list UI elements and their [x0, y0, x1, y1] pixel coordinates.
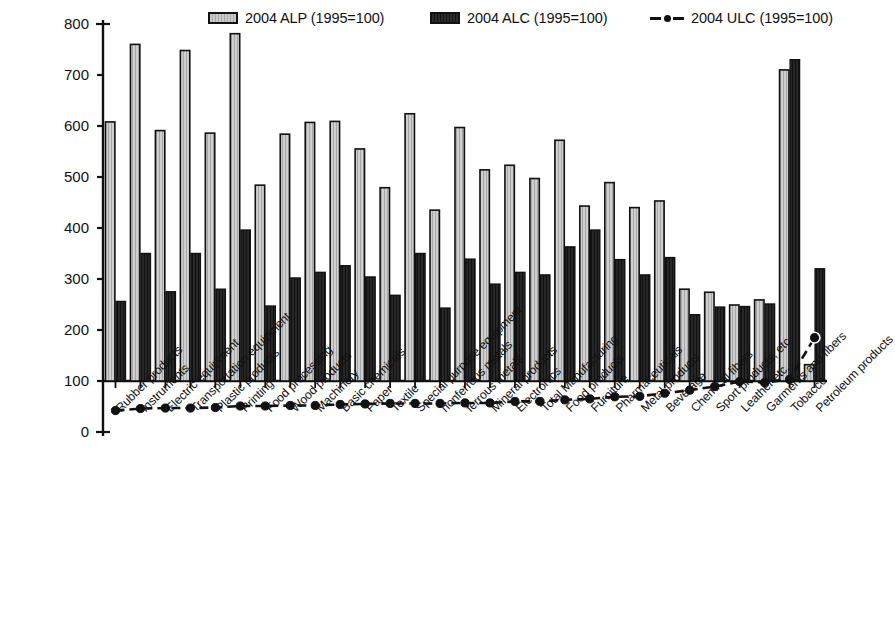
bar-alp-5 [230, 34, 239, 381]
ulc-point-22 [661, 389, 669, 397]
ulc-point-11 [386, 399, 394, 407]
bar-alp-19 [580, 206, 589, 381]
ulc-point-9 [336, 400, 344, 408]
bar-alc-4 [216, 289, 225, 381]
bar-alc-9 [341, 266, 350, 381]
y-tick-label-700: 700 [47, 67, 89, 82]
bar-alc-8 [316, 272, 325, 381]
bar-alp-28 [805, 365, 814, 381]
ulc-point-4 [211, 403, 219, 411]
bar-alp-17 [530, 179, 539, 381]
bar-alp-18 [555, 140, 564, 381]
bar-alp-2 [155, 131, 164, 381]
ulc-point-1 [136, 404, 144, 412]
bar-alc-1 [141, 254, 150, 382]
bar-alc-19 [590, 230, 599, 381]
bar-alp-6 [255, 185, 264, 381]
bar-alc-11 [391, 295, 400, 381]
ulc-point-12 [411, 399, 419, 407]
bar-alc-12 [416, 254, 425, 382]
ulc-point-7 [286, 401, 294, 409]
ulc-point-20 [611, 393, 619, 401]
bar-alp-10 [355, 149, 364, 381]
ulc-point-27 [785, 375, 793, 383]
bar-alp-26 [755, 300, 764, 381]
ulc-point-8 [311, 401, 319, 409]
ulc-point-5 [236, 402, 244, 410]
bar-alc-17 [540, 275, 549, 381]
bar-alc-10 [366, 277, 375, 381]
bar-alc-16 [516, 272, 525, 381]
bar-alc-0 [116, 301, 125, 381]
ulc-point-23 [686, 386, 694, 394]
ulc-point-10 [361, 400, 369, 408]
bar-alp-7 [280, 134, 289, 381]
bar-alc-24 [715, 307, 724, 381]
bar-alc-6 [266, 306, 275, 381]
y-tick-label-100: 100 [47, 373, 89, 388]
bar-alp-14 [455, 128, 464, 381]
bar-alp-22 [655, 201, 664, 381]
bar-alc-3 [191, 254, 200, 382]
y-tick-label-600: 600 [47, 118, 89, 133]
bar-alp-8 [305, 122, 314, 381]
bar-alc-23 [690, 315, 699, 381]
ulc-point-13 [436, 399, 444, 407]
bar-alp-21 [630, 208, 639, 381]
bar-alc-5 [241, 230, 250, 381]
bar-alc-22 [665, 258, 674, 381]
bar-alp-13 [430, 210, 439, 381]
bar-alp-4 [205, 133, 214, 381]
ulc-point-6 [261, 402, 269, 410]
bar-alp-27 [780, 70, 789, 381]
ulc-point-15 [486, 399, 494, 407]
ulc-point-14 [461, 399, 469, 407]
ulc-point-16 [511, 397, 519, 405]
bar-alp-0 [105, 122, 114, 381]
ulc-point-21 [636, 392, 644, 400]
bar-alc-7 [291, 278, 300, 381]
ulc-point-0 [111, 406, 119, 414]
bar-alc-26 [765, 304, 774, 381]
bar-alc-21 [640, 275, 649, 381]
y-tick-label-500: 500 [47, 169, 89, 184]
bar-alc-15 [491, 284, 500, 381]
bar-alp-20 [605, 183, 614, 381]
bar-alp-12 [405, 114, 414, 381]
bar-alc-14 [466, 259, 475, 381]
bar-alc-2 [166, 292, 175, 381]
bar-alc-27 [790, 60, 799, 381]
y-tick-label-800: 800 [47, 16, 89, 31]
bar-alp-16 [505, 165, 514, 381]
bar-alp-23 [680, 289, 689, 381]
y-tick-label-0: 0 [47, 424, 89, 439]
bar-alp-25 [730, 305, 739, 381]
ulc-point-19 [586, 395, 594, 403]
ulc-point-18 [561, 396, 569, 404]
ulc-point-2 [161, 404, 169, 412]
bar-alc-13 [441, 308, 450, 381]
bar-alc-18 [565, 247, 574, 381]
bar-alp-15 [480, 170, 489, 381]
ulc-point-28 [809, 332, 820, 343]
ulc-point-25 [736, 377, 744, 385]
bar-alp-1 [130, 44, 139, 381]
bar-alc-20 [615, 260, 624, 381]
bar-alc-28 [815, 269, 824, 381]
ulc-point-24 [711, 383, 719, 391]
bar-alp-3 [180, 51, 189, 381]
y-tick-label-300: 300 [47, 271, 89, 286]
y-tick-label-200: 200 [47, 322, 89, 337]
y-tick-label-400: 400 [47, 220, 89, 235]
bar-alp-11 [380, 188, 389, 381]
bar-alp-24 [705, 292, 714, 381]
bar-alc-25 [740, 307, 749, 381]
ulc-point-17 [536, 397, 544, 405]
ulc-point-26 [760, 378, 768, 386]
bar-alp-9 [330, 121, 339, 381]
ulc-point-3 [186, 404, 194, 412]
